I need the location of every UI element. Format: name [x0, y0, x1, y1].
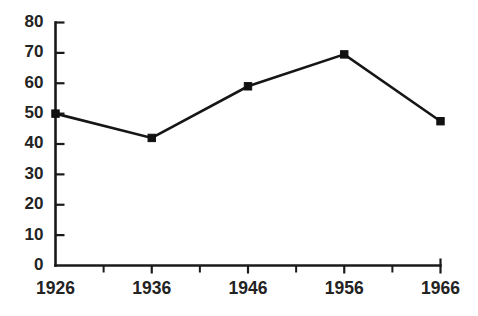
- data-point-marker: 1926: 50: [52, 110, 59, 117]
- y-axis-tick-label: 60: [25, 73, 44, 92]
- chart-background: [0, 0, 478, 316]
- y-axis-tick-label: 0: [34, 255, 43, 274]
- y-axis-tick-label: 20: [25, 194, 44, 213]
- x-axis-tick-label: 1926: [36, 278, 75, 298]
- y-axis-tick-label: 10: [25, 225, 44, 244]
- line-chart: 01020304050607080 19261936194619561966 1…: [0, 0, 478, 316]
- data-point-marker: 1966: 47.5: [437, 118, 444, 125]
- x-axis-tick-label: 1946: [229, 278, 268, 298]
- y-axis-tick-label: 40: [25, 133, 44, 152]
- y-axis-tick-label: 80: [25, 12, 44, 31]
- x-axis-tick-label: 1936: [132, 278, 171, 298]
- data-point-marker: 1936: 42: [148, 134, 155, 141]
- data-point-marker: 1946: 59: [244, 83, 251, 90]
- y-axis-tick-labels: 01020304050607080: [25, 12, 44, 274]
- y-axis-tick-label: 50: [25, 103, 44, 122]
- chart-container: 01020304050607080 19261936194619561966 1…: [0, 0, 478, 316]
- y-axis-tick-label: 70: [25, 42, 44, 61]
- y-axis-tick-label: 30: [25, 164, 44, 183]
- x-axis-tick-label: 1956: [325, 278, 364, 298]
- x-axis-tick-label: 1966: [421, 278, 460, 298]
- data-point-marker: 1956: 69.5: [341, 51, 348, 58]
